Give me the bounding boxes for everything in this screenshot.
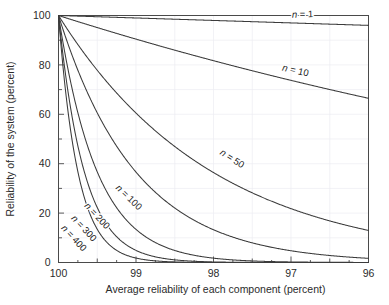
curve-label-100: n = 100n = 100 (114, 182, 145, 212)
curve-label-text: n = 100 (114, 182, 145, 212)
curve-label-1: n = 1n = 1 (292, 8, 314, 20)
x-axis-tick-label: 98 (208, 267, 220, 279)
x-axis-title: Average reliability of each component (p… (106, 283, 326, 295)
x-axis-tick-label: 99 (130, 267, 142, 279)
curve-label-text: n = 10 (281, 62, 309, 79)
y-axis-tick-label: 60 (39, 108, 51, 120)
y-axis-title: Reliability of the system (percent) (4, 61, 16, 216)
curve-label-text: n = 1 (292, 8, 314, 20)
curve-label-value: = 100 (118, 186, 145, 212)
curve-label-value: = 50 (223, 149, 247, 170)
curve-label-value: = 1 (297, 8, 313, 19)
y-axis-tick-label: 80 (39, 59, 51, 71)
reliability-chart: 020406080100 10099989796 n = 1n = 1n = 1… (0, 0, 389, 305)
curve-label-10: n = 10n = 10 (281, 62, 309, 79)
x-axis-tick-label: 96 (363, 267, 375, 279)
y-axis-tick-label: 40 (39, 157, 51, 169)
curve-label-text: n = 50 (218, 146, 246, 170)
curve-label-value: = 10 (287, 63, 310, 79)
y-axis-tick-labels: 020406080100 (33, 9, 51, 268)
x-axis-tick-labels: 10099989796 (50, 267, 375, 279)
curve-label-50: n = 50n = 50 (218, 146, 246, 170)
x-axis-tick-label: 97 (285, 267, 297, 279)
y-axis-tick-label: 20 (39, 207, 51, 219)
x-axis-tick-label: 100 (50, 267, 68, 279)
y-axis-tick-label: 100 (33, 9, 51, 21)
chart-page: 020406080100 10099989796 n = 1n = 1n = 1… (0, 0, 389, 305)
